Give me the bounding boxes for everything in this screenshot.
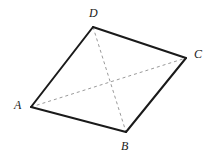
diagonal-DB [93, 27, 126, 132]
vertex-label-B: B [121, 140, 128, 152]
side-DC [93, 27, 186, 58]
side-CB [126, 58, 186, 132]
vertex-label-D: D [89, 7, 98, 19]
sides-group [31, 27, 186, 132]
geometry-figure: D C A B [0, 0, 218, 160]
quadrilateral-diagram [0, 0, 218, 160]
diagonal-AC [31, 58, 186, 107]
vertex-label-C: C [194, 48, 202, 60]
side-AD [31, 27, 93, 107]
vertex-label-A: A [14, 99, 21, 111]
side-BA [31, 107, 126, 132]
diagonals-group [31, 27, 186, 132]
